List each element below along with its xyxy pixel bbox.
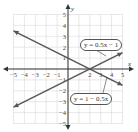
axes: xy: [3, 4, 134, 130]
svg-text:2: 2: [63, 44, 66, 51]
line2-label: y = 1 − 0.5x: [70, 93, 112, 105]
svg-text:−5: −5: [10, 71, 17, 78]
svg-text:−5: −5: [59, 120, 66, 127]
x-axis-left-arrow-icon: [3, 67, 8, 72]
svg-text:−2: −2: [43, 71, 50, 78]
svg-text:y: y: [70, 5, 75, 13]
svg-text:−4: −4: [59, 109, 67, 116]
y-axis-up-arrow-icon: [66, 4, 71, 9]
svg-text:5: 5: [63, 11, 66, 18]
svg-text:5: 5: [121, 71, 124, 78]
svg-text:x: x: [127, 60, 132, 68]
svg-text:4: 4: [110, 71, 114, 78]
line1-label: y = 0.5x − 1: [80, 39, 122, 51]
svg-text:3: 3: [63, 33, 66, 40]
y-axis-down-arrow-icon: [66, 125, 71, 130]
svg-text:2: 2: [88, 71, 91, 78]
svg-text:−3: −3: [59, 98, 66, 105]
coordinate-plane: xy −5−4−3−2−1234554321−1−2−3−4−5: [0, 0, 138, 132]
svg-text:−2: −2: [59, 87, 66, 94]
svg-text:−4: −4: [21, 71, 29, 78]
svg-text:−3: −3: [32, 71, 39, 78]
